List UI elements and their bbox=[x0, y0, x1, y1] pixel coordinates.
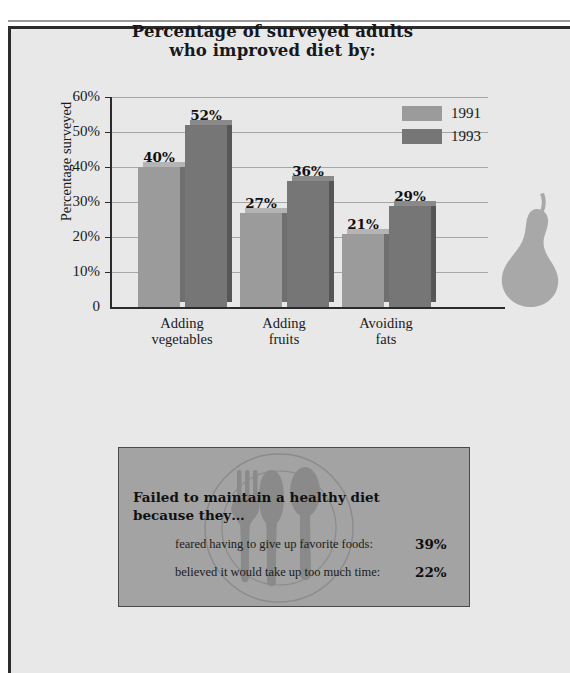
ytick-label-60: 60% bbox=[44, 88, 100, 105]
x-axis-line bbox=[110, 307, 505, 309]
callout-panel: Failed to maintain a healthy diet becaus… bbox=[118, 447, 470, 607]
ytick-label-50: 50% bbox=[44, 123, 100, 140]
bar-value-1993-adding-vegetables: 52% bbox=[177, 107, 235, 123]
ytick-label-0: 0 bbox=[44, 298, 100, 315]
bar-1991-adding-vegetables bbox=[138, 167, 180, 307]
bar-face bbox=[185, 125, 227, 307]
ytick-label-30: 30% bbox=[44, 193, 100, 210]
plot-area: 60% 50% 40% 30% 20% 10% 0 40% bbox=[110, 97, 488, 307]
bar-value-1991-avoiding-fats: 21% bbox=[334, 216, 392, 232]
gridline-60 bbox=[110, 97, 488, 98]
callout-heading-line2: because they… bbox=[133, 506, 453, 524]
bar-chart: Percentage surveyed 60% 50% 40% 30% 20% … bbox=[30, 75, 535, 340]
callout-row-percent-1: 22% bbox=[415, 564, 463, 580]
plate-utensils-icon bbox=[201, 450, 357, 606]
legend-label-1993: 1993 bbox=[451, 128, 481, 145]
bar-1991-adding-fruits bbox=[240, 213, 282, 307]
ytick-label-40: 40% bbox=[44, 158, 100, 175]
x-category-line2: fats bbox=[336, 331, 436, 347]
chart-title: Percentage of surveyed adults who improv… bbox=[0, 22, 545, 60]
legend-label-1991: 1991 bbox=[451, 105, 481, 122]
bar-face bbox=[342, 234, 384, 307]
legend-item-1991: 1991 bbox=[402, 102, 481, 125]
legend-swatch-1993 bbox=[402, 129, 442, 144]
chart-title-line2: who improved diet by: bbox=[0, 41, 545, 60]
bar-face bbox=[240, 213, 282, 307]
x-category-adding-vegetables: Adding vegetables bbox=[132, 315, 232, 347]
x-category-line1: Adding bbox=[132, 315, 232, 331]
page-root: Percentage of surveyed adults who improv… bbox=[0, 0, 570, 673]
bar-face bbox=[138, 167, 180, 307]
x-category-adding-fruits: Adding fruits bbox=[234, 315, 334, 347]
bar-side bbox=[329, 176, 334, 302]
bar-face bbox=[287, 181, 329, 307]
bar-value-1993-avoiding-fats: 29% bbox=[381, 188, 439, 204]
x-category-line1: Adding bbox=[234, 315, 334, 331]
bar-value-1993-adding-fruits: 36% bbox=[279, 163, 337, 179]
callout-row-1: believed it would take up too much time:… bbox=[175, 562, 463, 582]
bar-face bbox=[389, 206, 431, 307]
bar-value-1991-adding-fruits: 27% bbox=[232, 195, 290, 211]
chart-legend: 1991 1993 bbox=[402, 102, 481, 148]
ytick-label-10: 10% bbox=[44, 263, 100, 280]
bar-1993-avoiding-fats bbox=[389, 206, 431, 307]
callout-heading: Failed to maintain a healthy diet becaus… bbox=[133, 488, 453, 524]
y-axis-line bbox=[110, 97, 112, 308]
bar-side bbox=[227, 120, 232, 302]
x-category-line1: Avoiding bbox=[336, 315, 436, 331]
callout-row-0: feared having to give up favorite foods:… bbox=[175, 534, 463, 554]
legend-item-1993: 1993 bbox=[402, 125, 481, 148]
x-category-line2: fruits bbox=[234, 331, 334, 347]
bar-side bbox=[431, 201, 436, 302]
chart-title-line1: Percentage of surveyed adults bbox=[132, 22, 413, 41]
callout-row-text-0: feared having to give up favorite foods: bbox=[175, 537, 415, 552]
ytick-label-20: 20% bbox=[44, 228, 100, 245]
x-category-avoiding-fats: Avoiding fats bbox=[336, 315, 436, 347]
bar-1993-adding-fruits bbox=[287, 181, 329, 307]
callout-row-text-1: believed it would take up too much time: bbox=[175, 565, 415, 580]
callout-row-percent-0: 39% bbox=[415, 536, 463, 552]
x-category-line2: vegetables bbox=[132, 331, 232, 347]
bar-1993-adding-vegetables bbox=[185, 125, 227, 307]
bar-1991-avoiding-fats bbox=[342, 234, 384, 307]
legend-swatch-1991 bbox=[402, 106, 442, 121]
bar-value-1991-adding-vegetables: 40% bbox=[130, 149, 188, 165]
pear-icon bbox=[492, 185, 570, 309]
callout-heading-line1: Failed to maintain a healthy diet bbox=[133, 488, 453, 506]
